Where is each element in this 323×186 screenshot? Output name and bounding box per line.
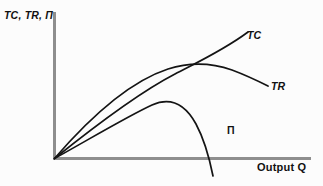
curve-tr	[55, 64, 269, 158]
curve-label-tr: TR	[271, 81, 285, 92]
x-axis-label: Output Q	[257, 162, 306, 173]
y-axis-label: TC, TR, Π	[4, 10, 53, 21]
chart-canvas	[0, 0, 323, 186]
curve-tc	[55, 32, 249, 159]
curve-label-tc: TC	[247, 30, 261, 41]
chart-figure: TC, TR, Π Output Q TC TR Π	[0, 0, 323, 186]
curve-label-pi: Π	[227, 125, 235, 136]
